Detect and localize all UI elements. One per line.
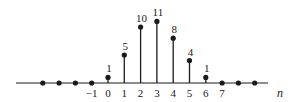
stem-marker <box>89 80 94 85</box>
stem-plot: 151011841 −101234567 n <box>0 0 298 102</box>
data-label: 10 <box>136 12 148 24</box>
data-label: 5 <box>123 40 129 52</box>
data-label: 11 <box>153 6 164 18</box>
data-label: 1 <box>204 62 210 74</box>
stem-marker <box>171 36 176 41</box>
stems <box>40 19 257 86</box>
tick-labels: −101234567 <box>86 87 226 99</box>
stem-marker <box>154 19 159 24</box>
tick-label: 0 <box>105 87 111 99</box>
tick-label: 1 <box>122 87 128 99</box>
stem-marker <box>122 52 127 57</box>
stem-marker <box>236 80 241 85</box>
data-label: 4 <box>188 46 194 58</box>
tick-label: 2 <box>138 87 144 99</box>
stem-marker <box>203 75 208 80</box>
plot-canvas: 151011841 −101234567 n <box>0 0 298 102</box>
tick-label: 3 <box>154 87 160 99</box>
data-labels: 151011841 <box>106 6 209 74</box>
stem-marker <box>252 80 257 85</box>
data-label: 8 <box>171 23 177 35</box>
stem-marker <box>105 75 110 80</box>
x-axis-label: n <box>277 86 283 100</box>
stem-marker <box>187 58 192 63</box>
stem-marker <box>57 80 62 85</box>
stem-marker <box>73 80 78 85</box>
stem-marker <box>40 80 45 85</box>
tick-label: 4 <box>170 87 176 99</box>
tick-label: 6 <box>203 87 209 99</box>
data-label: 1 <box>106 62 112 74</box>
stem-marker <box>138 24 143 29</box>
tick-label: −1 <box>86 87 98 99</box>
stem-marker <box>220 80 225 85</box>
tick-label: 7 <box>219 87 225 99</box>
tick-label: 5 <box>187 87 193 99</box>
